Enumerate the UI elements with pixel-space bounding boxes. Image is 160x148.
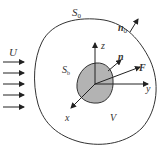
z-axis-label: z <box>100 40 105 51</box>
control-volume-diagram: S0 n0 U Sb z n F y x V <box>0 0 160 148</box>
outer-normal-label: n0 <box>118 22 128 35</box>
force-label: F <box>138 62 146 73</box>
freestream-label: U <box>9 46 18 58</box>
body-surface-label: Sb <box>62 64 70 76</box>
freestream-arrows <box>3 62 24 107</box>
diagram-canvas: S0 n0 U Sb z n F y x V <box>0 0 160 148</box>
y-axis-label: y <box>145 83 151 94</box>
outer-surface-label: S0 <box>72 6 82 20</box>
x-axis-label: x <box>64 112 70 123</box>
outer-normal-arrow <box>130 19 138 32</box>
body-normal-label: n <box>118 51 124 62</box>
volume-label: V <box>110 112 118 123</box>
